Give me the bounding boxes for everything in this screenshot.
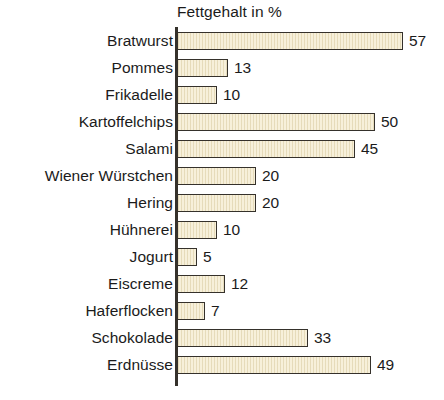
bar-row: Hühnerei 10 [0,216,444,243]
category-label: Schokolade [91,329,173,347]
bar [177,113,375,131]
bar [177,59,228,77]
bar-row: Bratwurst 57 [0,27,444,54]
value-label: 50 [381,113,398,131]
value-label: 57 [409,32,426,50]
category-label: Erdnüsse [107,356,173,374]
bar [177,248,197,266]
bar [177,86,217,104]
category-label: Hühnerei [110,221,173,239]
category-label: Pommes [112,59,173,77]
category-label: Bratwurst [107,32,173,50]
value-label: 20 [262,194,279,212]
category-label: Salami [125,140,173,158]
chart-title: Fettgehalt in % [177,3,282,21]
value-label: 5 [203,248,212,266]
value-label: 7 [211,302,220,320]
value-label: 10 [223,86,240,104]
value-label: 12 [231,275,248,293]
bar-row: Salami 45 [0,135,444,162]
bar-row: Kartoffelchips 50 [0,108,444,135]
category-label: Frikadelle [105,86,173,104]
bar [177,221,217,239]
bar [177,167,256,185]
category-label: Kartoffelchips [79,113,173,131]
value-label: 33 [314,329,331,347]
bar [177,275,225,293]
bar [177,32,403,50]
value-label: 20 [262,167,279,185]
bar-row: Eiscreme 12 [0,270,444,297]
value-label: 13 [234,59,251,77]
value-label: 45 [361,140,378,158]
category-label: Eiscreme [108,275,173,293]
bar-row: Jogurt 5 [0,243,444,270]
plot-area: Bratwurst 57 Pommes 13 Frikadelle 10 Kar… [0,27,444,387]
bar [177,356,371,374]
bar-row: Haferflocken 7 [0,297,444,324]
bar-chart: Fettgehalt in % Bratwurst 57 Pommes 13 F… [0,0,444,400]
bar [177,194,256,212]
bar [177,140,355,158]
bar-row: Erdnüsse 49 [0,351,444,378]
category-label: Jogurt [130,248,173,266]
bar [177,329,308,347]
bar-row: Hering 20 [0,189,444,216]
bar [177,302,205,320]
category-label: Wiener Würstchen [45,167,173,185]
category-label: Hering [127,194,173,212]
value-label: 10 [223,221,240,239]
bar-row: Schokolade 33 [0,324,444,351]
bar-row: Frikadelle 10 [0,81,444,108]
bar-row: Wiener Würstchen 20 [0,162,444,189]
bar-row: Pommes 13 [0,54,444,81]
value-label: 49 [377,356,394,374]
category-label: Haferflocken [85,302,173,320]
